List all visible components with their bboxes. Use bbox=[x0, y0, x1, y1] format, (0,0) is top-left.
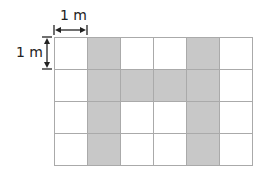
shaded-cell bbox=[187, 102, 220, 134]
shaded-cell bbox=[88, 70, 121, 102]
empty-cell bbox=[220, 70, 253, 102]
empty-cell bbox=[220, 134, 253, 166]
shaded-cell bbox=[187, 70, 220, 102]
empty-cell bbox=[121, 38, 154, 70]
shaded-cell bbox=[88, 102, 121, 134]
empty-cell bbox=[121, 134, 154, 166]
shaded-cell bbox=[88, 134, 121, 166]
empty-cell bbox=[154, 38, 187, 70]
shaded-cell bbox=[187, 134, 220, 166]
empty-cell bbox=[220, 38, 253, 70]
empty-cell bbox=[55, 70, 88, 102]
shaded-cell bbox=[187, 38, 220, 70]
shaded-cell bbox=[154, 70, 187, 102]
vertical-dimension-arrow bbox=[42, 37, 52, 69]
empty-cell bbox=[55, 38, 88, 70]
empty-cell bbox=[55, 134, 88, 166]
empty-cell bbox=[55, 102, 88, 134]
shaded-cell bbox=[88, 38, 121, 70]
empty-cell bbox=[154, 134, 187, 166]
horizontal-dimension-arrow bbox=[54, 25, 87, 35]
shaded-cell bbox=[121, 70, 154, 102]
empty-cell bbox=[154, 102, 187, 134]
empty-cell bbox=[220, 102, 253, 134]
empty-cell bbox=[121, 102, 154, 134]
tile-grid bbox=[54, 37, 253, 166]
